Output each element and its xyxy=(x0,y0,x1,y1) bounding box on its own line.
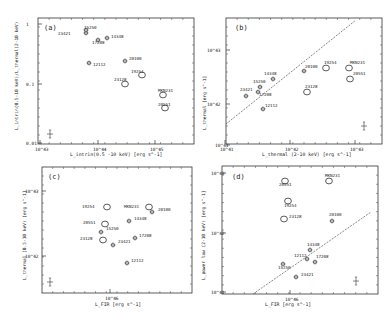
reference-line xyxy=(226,20,356,124)
panel-c-content: (c)10^4610^4310^42L_FIR [erg s^-1]L_ther… xyxy=(22,167,192,308)
point-label: 15250 xyxy=(106,226,119,231)
x-tick-label: 10^43 xyxy=(350,147,364,152)
y-axis-label: L_thermal (0.5-10 keV) [erg s^-1] xyxy=(22,191,28,280)
point-label: 20100 xyxy=(129,56,142,61)
point-label: 23421 xyxy=(58,31,71,36)
x-tick-label: 10^46 xyxy=(105,296,119,301)
data-point: 17208 xyxy=(133,233,152,240)
point-label: 20100 xyxy=(305,64,318,69)
y-tick-label: 10^41 xyxy=(215,143,229,148)
point-label: 17208 xyxy=(316,254,329,259)
data-point: 12112 xyxy=(87,61,106,67)
data-point: 20551 xyxy=(83,220,108,227)
data-point: MKN231 xyxy=(325,173,341,184)
data-point: 23128 xyxy=(281,214,302,222)
point-label: 15250 xyxy=(84,25,97,30)
data-point: 20100 xyxy=(123,56,142,63)
data-point: 19254 xyxy=(323,60,337,71)
y-tick-label: 0.1 xyxy=(26,82,34,87)
circle-marker-icon xyxy=(346,65,353,71)
data-point: 12112 xyxy=(294,253,309,261)
data-point: 17208 xyxy=(313,254,329,264)
circle-marker-icon xyxy=(304,89,311,95)
panel-b xyxy=(226,18,382,144)
point-label: 15250 xyxy=(278,265,291,270)
point-label: 23421 xyxy=(240,87,253,92)
point-label: 23128 xyxy=(305,84,318,89)
circle-marker-icon xyxy=(326,178,333,184)
circle-marker-icon xyxy=(104,204,111,210)
reference-line xyxy=(253,212,371,294)
y-tick-label: 10^43 xyxy=(207,48,221,53)
data-point: MKN231 xyxy=(158,88,174,98)
panel-label: (c) xyxy=(48,173,61,181)
panel-label: (d) xyxy=(232,173,245,181)
error-bar-icon xyxy=(361,122,367,130)
data-point: 12112 xyxy=(261,103,278,111)
point-label: 20551 xyxy=(353,71,366,76)
data-point: 20551 xyxy=(347,71,366,82)
point-label: 14348 xyxy=(111,34,124,39)
data-point: 23128 xyxy=(304,84,318,95)
circle-marker-icon xyxy=(100,237,107,243)
circle-marker-icon xyxy=(347,76,354,82)
point-label: 17208 xyxy=(139,233,152,238)
data-point: MKN231 xyxy=(346,60,366,71)
y-tick-label: 10^42 xyxy=(207,102,221,107)
panel-d-content: (d)10^4610^4310^4210^41L_FIR [erg s^-1]L… xyxy=(201,166,378,308)
point-label: 19254 xyxy=(131,69,144,74)
data-point: 14348 xyxy=(307,242,320,252)
x-axis-label: L_FIR [erg s^-1] xyxy=(265,302,311,308)
y-tick-label: 10^42 xyxy=(211,231,225,236)
x-tick-label: 10^43 xyxy=(35,147,49,152)
panel-b-content: (b)10^4110^4210^4310^4310^4210^41L_therm… xyxy=(202,18,382,158)
point-label: MKN231 xyxy=(350,60,366,65)
data-point: 15250 xyxy=(99,226,119,234)
data-point: 23128 xyxy=(114,77,128,87)
y-tick-label: 10^42 xyxy=(25,254,39,259)
data-point: 15250 xyxy=(253,79,266,89)
point-label: 20551 xyxy=(83,220,96,225)
point-label: 17208 xyxy=(259,92,272,97)
point-label: 12112 xyxy=(265,103,278,108)
point-label: 23128 xyxy=(114,77,127,82)
data-point: 17208 xyxy=(256,90,272,97)
point-label: MKN231 xyxy=(124,204,140,209)
error-bar-icon xyxy=(47,130,53,138)
point-label: 23421 xyxy=(118,239,131,244)
data-point: 17208 xyxy=(92,38,105,45)
data-point: 12112 xyxy=(125,258,144,265)
point-label: 17208 xyxy=(92,40,105,45)
y-axis-label: L_power law (2-10 keV) [erg s^-1] xyxy=(201,191,207,280)
data-point: 23421 xyxy=(294,272,314,279)
data-point: 14348 xyxy=(105,34,124,40)
x-axis-label: L_intrin(0.5 -10 keV) [erg s^-1] xyxy=(70,152,162,158)
data-point: 20551 xyxy=(279,178,292,187)
point-label: 12112 xyxy=(131,258,144,263)
panel-d-frame xyxy=(222,166,378,294)
data-point: 23421 xyxy=(240,87,253,98)
data-point: MKN231 xyxy=(124,204,152,210)
data-point: 23128 xyxy=(80,236,106,243)
figure: (a)10^4310^4410^4510.10.01L_intrin(0.5 -… xyxy=(0,0,392,322)
data-point: 20551 xyxy=(158,102,171,111)
x-tick-label: 10^41 xyxy=(220,147,234,152)
y-tick-label: 10^43 xyxy=(25,189,39,194)
y-tick-label: 10^41 xyxy=(211,290,225,295)
data-point: 20100 xyxy=(302,64,318,73)
point-label: 19254 xyxy=(82,204,95,209)
y-tick-label: 1 xyxy=(26,22,29,27)
point-label: MKN231 xyxy=(158,88,174,93)
panel-label: (a) xyxy=(44,24,57,32)
y-axis-label: L_intrin(0.5-10 keV)/L_thermal(2-10 keV) xyxy=(14,22,20,130)
data-point: 19254 xyxy=(131,69,145,78)
data-point: 15250 xyxy=(278,262,291,270)
point-label: 12112 xyxy=(93,62,106,67)
y-tick-label: 0.01 xyxy=(26,141,37,146)
point-label: 14348 xyxy=(264,71,277,76)
point-label: 19254 xyxy=(284,203,297,208)
point-label: 20100 xyxy=(158,207,171,212)
error-bar-icon xyxy=(353,277,359,285)
point-label: 14348 xyxy=(307,242,320,247)
data-point: 23421 xyxy=(58,31,88,36)
